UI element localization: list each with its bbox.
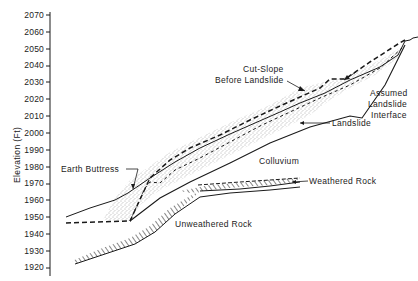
label-assumed-line2: Landslide (368, 99, 407, 110)
y-tick-2070: 2070 (4, 10, 44, 20)
y-tick-1950: 1950 (4, 212, 44, 222)
y-tick-1920: 1920 (4, 262, 44, 272)
label-colluvium: Colluvium (259, 156, 299, 167)
cross-section-figure (0, 0, 418, 281)
y-tick-2030: 2030 (4, 77, 44, 87)
label-assumed-line1: Assumed (370, 88, 408, 99)
y-tick-1940: 1940 (4, 229, 44, 239)
y-tick-2050: 2050 (4, 44, 44, 54)
label-cut-slope-line1: Cut-Slope (243, 64, 284, 75)
y-axis-label: Elevation (Ft) (12, 127, 22, 183)
label-cut-slope-line2: Before Landslide (215, 75, 284, 86)
y-tick-2020: 2020 (4, 94, 44, 104)
y-tick-2060: 2060 (4, 27, 44, 37)
y-tick-1980: 1980 (4, 162, 44, 172)
label-landslide: Landslide (332, 118, 371, 129)
label-unweathered-rock: Unweathered Rock (175, 219, 252, 230)
label-weathered-rock: Weathered Rock (309, 176, 376, 187)
y-tick-2000: 2000 (4, 128, 44, 138)
weathered-rock-wedge (180, 178, 300, 193)
y-tick-2010: 2010 (4, 111, 44, 121)
y-tick-1970: 1970 (4, 178, 44, 188)
label-earth-buttress: Earth Buttress (61, 164, 119, 175)
y-tick-1960: 1960 (4, 195, 44, 205)
label-assumed-line3: Interface (371, 110, 407, 121)
y-tick-1930: 1930 (4, 246, 44, 256)
y-tick-2040: 2040 (4, 60, 44, 70)
y-axis (46, 12, 50, 276)
y-tick-1990: 1990 (4, 145, 44, 155)
